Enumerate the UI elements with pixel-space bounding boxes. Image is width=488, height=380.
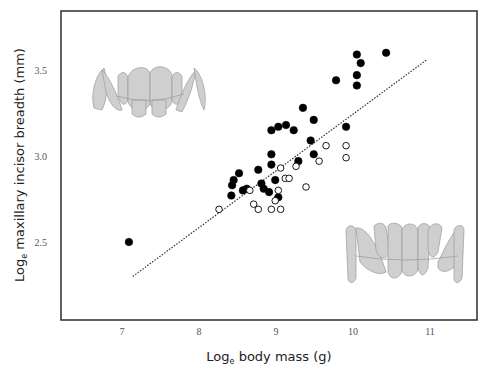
filled-data-point — [265, 188, 273, 196]
filled-data-point — [299, 104, 307, 112]
open-data-point — [293, 163, 300, 170]
y-tick-label: 3.0 — [35, 151, 48, 162]
filled-data-point — [230, 176, 238, 184]
open-data-point — [275, 187, 282, 194]
filled-data-point — [282, 121, 290, 129]
filled-data-point — [353, 51, 361, 59]
x-axis-ticks: 7891011 — [120, 326, 435, 337]
open-data-point — [216, 206, 223, 213]
filled-data-point — [310, 116, 318, 124]
open-data-point — [323, 142, 330, 149]
open-data-point — [272, 197, 279, 204]
y-tick-label: 2.5 — [35, 237, 48, 248]
filled-data-point — [342, 123, 350, 131]
open-data-point — [303, 184, 310, 191]
filled-data-point — [290, 126, 298, 134]
open-data-point — [277, 165, 284, 172]
open-data-point — [255, 206, 262, 213]
open-data-point — [316, 158, 323, 165]
filled-data-point — [353, 71, 361, 79]
y-axis-label: Loge maxillary incisor breadth (mm) — [12, 48, 29, 282]
x-tick-label: 11 — [425, 326, 435, 337]
filled-data-point — [268, 150, 276, 158]
scatter-chart: 2.53.03.5 7891011 Loge body mass (g) Log… — [0, 0, 488, 380]
filled-data-point — [275, 123, 283, 131]
filled-data-point — [235, 169, 243, 177]
x-tick-label: 8 — [197, 326, 202, 337]
filled-data-point — [310, 150, 318, 158]
open-data-point — [247, 187, 254, 194]
x-tick-label: 10 — [348, 326, 358, 337]
filled-data-point — [228, 192, 236, 200]
filled-data-point — [307, 137, 315, 145]
filled-data-point — [268, 161, 276, 169]
filled-data-point — [353, 82, 361, 90]
open-data-point — [286, 175, 293, 182]
filled-data-point — [382, 49, 390, 57]
filled-data-point — [332, 77, 340, 85]
open-data-point — [343, 142, 350, 149]
x-tick-label: 7 — [120, 326, 125, 337]
y-axis-ticks: 2.53.03.5 — [35, 65, 48, 248]
x-axis-label: Loge body mass (g) — [206, 349, 331, 366]
filled-data-point — [357, 59, 365, 67]
open-data-point — [343, 154, 350, 161]
y-tick-label: 3.5 — [35, 65, 48, 76]
x-tick-label: 9 — [274, 326, 279, 337]
filled-data-point — [268, 126, 276, 134]
open-data-point — [268, 206, 275, 213]
filled-data-point — [271, 176, 279, 184]
filled-data-point — [125, 238, 133, 246]
open-data-point — [277, 206, 284, 213]
filled-data-point — [254, 166, 262, 174]
